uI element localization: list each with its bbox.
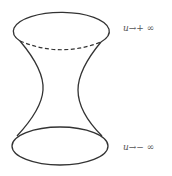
bottom-limit-label: u→− ∞ [123,142,154,152]
right-profile-curve [78,42,102,136]
left-profile-curve [17,41,43,136]
top-label-limit: + ∞ [136,23,154,33]
bottom-label-limit: − ∞ [136,142,154,152]
bottom-rim-ellipse [12,127,108,165]
top-limit-label: u→+ ∞ [123,23,154,33]
top-rim-front-dashed-arc [20,41,101,50]
top-rim-back-arc [13,12,109,42]
